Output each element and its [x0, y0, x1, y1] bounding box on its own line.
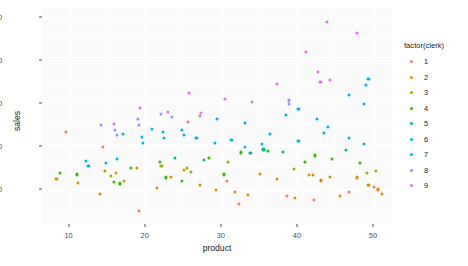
- data-point: [317, 70, 320, 73]
- data-point: [199, 111, 202, 114]
- data-point: [121, 132, 124, 135]
- legend-key-icon: [404, 138, 419, 141]
- figure-caption: [0, 257, 468, 266]
- data-point: [203, 158, 206, 161]
- data-point: [215, 189, 218, 192]
- data-point: [347, 190, 350, 193]
- legend-item-2[interactable]: 2: [404, 70, 468, 86]
- x-tick-label: 40: [293, 231, 301, 240]
- legend-swatch: [410, 91, 413, 94]
- data-point: [339, 194, 342, 197]
- data-point: [101, 146, 104, 149]
- data-point: [285, 113, 288, 116]
- data-point: [171, 116, 174, 119]
- data-point: [138, 123, 141, 126]
- legend-key-icon: [404, 76, 419, 79]
- data-point: [167, 111, 170, 114]
- data-point: [99, 124, 102, 127]
- data-point: [164, 176, 167, 179]
- y-tick-mark: [39, 102, 42, 103]
- data-point: [140, 135, 143, 138]
- y-tick-label: 500: [0, 12, 2, 21]
- y-axis-label: sales: [12, 91, 22, 151]
- x-tick-label: 20: [141, 231, 149, 240]
- legend-item-4[interactable]: 4: [404, 101, 468, 117]
- data-point: [213, 141, 216, 144]
- data-point: [287, 99, 290, 102]
- x-tick-mark: [220, 224, 221, 227]
- data-point: [137, 209, 140, 212]
- data-point: [319, 81, 322, 84]
- data-point: [195, 136, 198, 139]
- data-point: [85, 160, 88, 163]
- data-point: [367, 184, 370, 187]
- legend-label: 4: [424, 104, 428, 113]
- data-point: [139, 107, 142, 110]
- data-point: [297, 139, 300, 142]
- data-point: [325, 20, 328, 23]
- gridline: [145, 8, 146, 223]
- data-point: [304, 50, 307, 53]
- data-point: [376, 188, 379, 191]
- data-point: [358, 162, 361, 165]
- legend-item-6[interactable]: 6: [404, 132, 468, 148]
- data-point: [327, 126, 330, 129]
- y-tick-label: 100: [0, 184, 2, 193]
- data-point: [348, 93, 351, 96]
- legend-key-icon: [404, 91, 419, 94]
- data-point: [276, 177, 279, 180]
- legend-item-5[interactable]: 5: [404, 116, 468, 132]
- gridline: [42, 81, 392, 82]
- data-point: [262, 148, 265, 151]
- legend-items: 123456789: [404, 54, 468, 194]
- legend-label: 3: [424, 88, 428, 97]
- data-point: [161, 130, 164, 133]
- gridline: [42, 17, 392, 18]
- data-point: [116, 158, 119, 161]
- data-point: [207, 157, 210, 160]
- data-point: [185, 167, 188, 170]
- legend-item-8[interactable]: 8: [404, 163, 468, 179]
- y-tick-label: 300: [0, 98, 2, 107]
- data-point: [98, 192, 101, 195]
- legend-swatch: [410, 153, 413, 156]
- data-point: [136, 117, 139, 120]
- data-point: [129, 166, 132, 169]
- data-point: [174, 156, 177, 159]
- legend-key-icon: [404, 169, 419, 172]
- data-point: [365, 171, 368, 174]
- data-point: [230, 138, 233, 141]
- gridline: [259, 8, 260, 223]
- legend-label: 8: [424, 166, 428, 175]
- x-axis-label: product: [42, 243, 392, 253]
- data-point: [367, 77, 370, 80]
- data-point: [381, 192, 384, 195]
- gridline: [42, 103, 392, 104]
- scatter-chart: 1002003004005001020304050 product sales …: [0, 0, 468, 266]
- data-point: [323, 132, 326, 135]
- data-point: [55, 178, 58, 181]
- data-point: [308, 174, 311, 177]
- legend-item-9[interactable]: 9: [404, 178, 468, 194]
- legend-item-1[interactable]: 1: [404, 54, 468, 70]
- x-tick-mark: [296, 224, 297, 227]
- gridline: [373, 8, 374, 223]
- data-point: [266, 149, 269, 152]
- data-point: [330, 158, 333, 161]
- legend-key-icon: [404, 184, 419, 187]
- data-point: [158, 160, 161, 163]
- gridline: [42, 210, 392, 211]
- data-point: [304, 160, 307, 163]
- data-point: [198, 183, 201, 186]
- data-point: [190, 171, 193, 174]
- legend-item-7[interactable]: 7: [404, 147, 468, 163]
- data-point: [344, 149, 347, 152]
- data-point: [313, 199, 316, 202]
- data-point: [328, 175, 331, 178]
- y-tick-mark: [39, 188, 42, 189]
- x-tick-label: 10: [65, 231, 73, 240]
- data-point: [315, 117, 318, 120]
- legend-item-3[interactable]: 3: [404, 85, 468, 101]
- data-point: [112, 181, 115, 184]
- data-point: [348, 136, 351, 139]
